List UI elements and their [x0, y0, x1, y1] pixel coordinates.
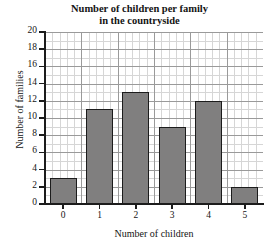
x-tick-label: 1	[92, 210, 108, 220]
y-tick-mark	[39, 134, 44, 136]
y-tick-label: 10	[28, 111, 38, 121]
x-tick-label: 5	[237, 210, 253, 220]
y-tick-label: 16	[28, 59, 38, 69]
y-tick-label: 6	[32, 145, 37, 155]
y-tick-mark	[39, 66, 44, 68]
y-tick-label: 12	[28, 94, 38, 104]
x-tick-label: 2	[128, 210, 144, 220]
x-tick-mark	[208, 204, 210, 209]
y-tick-label: 2	[32, 180, 37, 190]
bar	[195, 101, 222, 204]
x-tick-mark	[171, 204, 173, 209]
y-tick-mark	[39, 186, 44, 188]
bar	[50, 178, 77, 204]
y-axis-label: Number of families	[14, 35, 25, 185]
x-axis-ticks: 012345	[45, 204, 263, 226]
y-tick-label: 0	[32, 197, 37, 207]
x-tick-mark	[62, 204, 64, 209]
bar	[159, 127, 186, 204]
chart-title-line-1: Number of children per family	[0, 3, 279, 15]
y-tick-label: 20	[28, 25, 38, 35]
chart-title-line-2: in the countryside	[0, 15, 279, 27]
y-tick-mark	[39, 100, 44, 102]
plot-area	[45, 32, 263, 204]
y-tick-mark	[39, 117, 44, 119]
y-tick-mark	[39, 31, 44, 33]
x-tick-label: 0	[55, 210, 71, 220]
y-tick-mark	[39, 169, 44, 171]
bar	[122, 92, 149, 204]
chart-title: Number of children per family in the cou…	[0, 3, 279, 27]
x-tick-mark	[99, 204, 101, 209]
y-tick-mark	[39, 152, 44, 154]
x-tick-label: 4	[201, 210, 217, 220]
bar-series	[45, 32, 263, 204]
x-tick-label: 3	[164, 210, 180, 220]
y-tick-label: 8	[32, 128, 37, 138]
y-tick-mark	[39, 83, 44, 85]
y-tick-mark	[39, 48, 44, 50]
y-tick-label: 18	[28, 42, 38, 52]
y-tick-label: 4	[32, 163, 37, 173]
chart-figure: Number of children per family in the cou…	[0, 0, 279, 250]
y-tick-label: 14	[28, 77, 38, 87]
x-tick-mark	[244, 204, 246, 209]
bar	[86, 109, 113, 204]
x-axis-label: Number of children	[45, 228, 263, 239]
y-tick-mark	[39, 203, 44, 205]
x-tick-mark	[135, 204, 137, 209]
bar	[231, 187, 258, 204]
